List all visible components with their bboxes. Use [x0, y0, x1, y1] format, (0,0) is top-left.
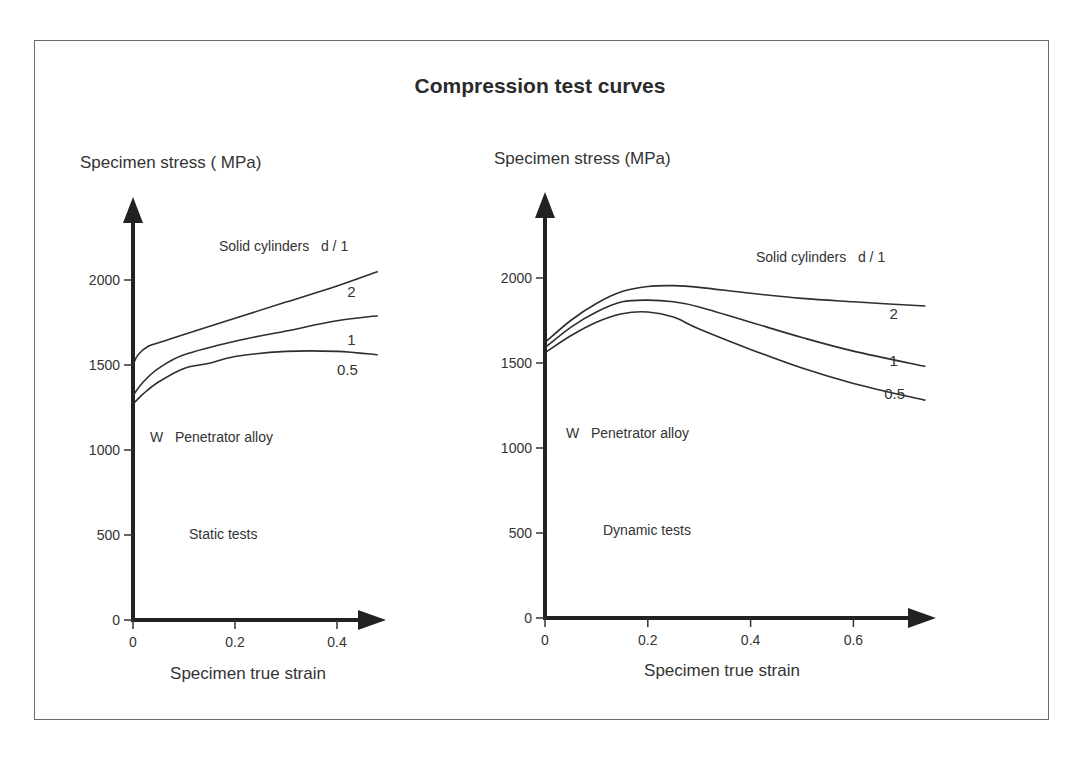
y-tick-label: 2000 — [501, 270, 532, 286]
series-label: 1 — [889, 352, 897, 369]
x-tick-label: 0 — [129, 634, 137, 650]
y-tick-label: 1500 — [501, 355, 532, 371]
static-legend-title: Solid cylinders d / 1 — [219, 238, 348, 254]
y-tick-label: 500 — [97, 527, 121, 543]
arrow-up-icon — [123, 197, 143, 223]
static-curve-d1-1 — [133, 316, 378, 396]
dynamic-tests-chart: Specimen stress (MPa)050010001500200000.… — [494, 149, 936, 680]
dynamic-curve-d1-2 — [545, 286, 925, 343]
dynamic-y-axis-label: Specimen stress (MPa) — [494, 149, 671, 168]
y-tick-label: 1000 — [501, 440, 532, 456]
x-tick-label: 0.2 — [225, 634, 245, 650]
dynamic-legend-title: Solid cylinders d / 1 — [756, 249, 885, 265]
series-label: 0.5 — [884, 385, 905, 402]
y-tick-label: 500 — [509, 525, 533, 541]
dynamic-test-label: Dynamic tests — [603, 522, 691, 538]
charts-canvas: Specimen stress ( MPa)050010001500200000… — [0, 0, 1080, 764]
y-tick-label: 0 — [112, 612, 120, 628]
y-tick-label: 1500 — [89, 357, 120, 373]
static-y-axis-label: Specimen stress ( MPa) — [80, 153, 261, 172]
y-tick-label: 1000 — [89, 442, 120, 458]
y-tick-label: 2000 — [89, 272, 120, 288]
static-test-label: Static tests — [189, 526, 257, 542]
y-tick-label: 0 — [524, 610, 532, 626]
series-label: 1 — [347, 331, 355, 348]
x-tick-label: 0.4 — [741, 632, 761, 648]
static-tests-chart: Specimen stress ( MPa)050010001500200000… — [80, 153, 386, 683]
arrow-right-icon — [908, 608, 936, 628]
static-material-label: W Penetrator alloy — [150, 429, 273, 445]
dynamic-x-axis-label: Specimen true strain — [644, 661, 800, 680]
static-x-axis-label: Specimen true strain — [170, 664, 326, 683]
arrow-right-icon — [358, 610, 386, 630]
series-label: 2 — [889, 305, 897, 322]
x-tick-label: 0.4 — [327, 634, 347, 650]
dynamic-curve-d1-1 — [545, 300, 925, 366]
dynamic-curve-d1-0.5 — [545, 312, 925, 401]
series-label: 2 — [347, 283, 355, 300]
x-tick-label: 0.2 — [638, 632, 658, 648]
arrow-up-icon — [535, 192, 555, 218]
x-tick-label: 0.6 — [844, 632, 864, 648]
series-label: 0.5 — [337, 361, 358, 378]
dynamic-material-label: W Penetrator alloy — [566, 425, 689, 441]
x-tick-label: 0 — [541, 632, 549, 648]
